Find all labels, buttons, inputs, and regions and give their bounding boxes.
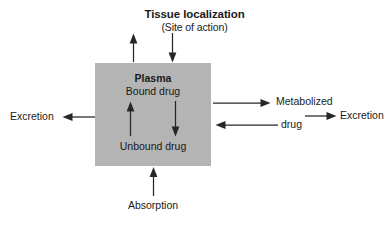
excretion-left-label: Excretion — [10, 111, 54, 122]
plasma-label: Plasma — [95, 73, 211, 84]
plasma-to-tissue-arrow-icon — [130, 34, 138, 63]
absorption-label: Absorption — [105, 200, 201, 211]
tissue-to-plasma-arrow-icon — [169, 33, 177, 63]
plasma-to-metabolized-arrow-icon — [213, 99, 271, 107]
metabolized-label: Metabolized — [276, 96, 333, 107]
drug-label: drug — [281, 119, 302, 130]
bound-drug-label: Bound drug — [95, 86, 211, 97]
tissue-localization-title: Tissue localization — [0, 8, 389, 20]
pharmacokinetics-diagram: Tissue localization (Site of action) Pla… — [0, 0, 389, 227]
site-of-action-subtitle: (Site of action) — [0, 22, 389, 33]
absorption-to-plasma-arrow-icon — [150, 167, 158, 196]
plasma-to-excretion-left-arrow-icon — [63, 113, 96, 121]
metabolized-to-plasma-arrow-icon — [216, 121, 279, 129]
metabolized-to-excretion-right-arrow-icon — [305, 112, 337, 120]
unbound-drug-label: Unbound drug — [95, 141, 211, 152]
excretion-right-label: Excretion — [340, 110, 384, 121]
